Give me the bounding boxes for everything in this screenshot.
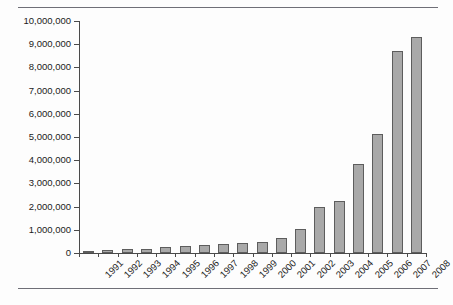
bar <box>276 238 287 253</box>
x-axis-tick <box>137 253 138 257</box>
x-axis-tick-label: 2005 <box>373 258 395 280</box>
y-axis-tick-label-text: 6,000,000 <box>29 109 71 119</box>
y-axis-tick-label-text: 2,000,000 <box>29 202 71 212</box>
y-axis-tick-label: 5,000,000 <box>0 132 71 142</box>
x-axis-tick <box>272 253 273 257</box>
x-axis-tick-label: 2003 <box>334 258 356 280</box>
x-axis-tick-label: 1995 <box>180 258 202 280</box>
y-axis-tick-label: 7,000,000 <box>0 86 71 96</box>
y-axis-tick-label-text: 4,000,000 <box>29 155 71 165</box>
bar <box>237 243 248 253</box>
y-axis-tick-label-text: 8,000,000 <box>29 62 71 72</box>
y-axis-tick-label: 1,000,000 <box>0 225 71 235</box>
x-axis-tick <box>175 253 176 257</box>
y-axis-tick-label: 0 <box>0 248 71 258</box>
y-axis-tick <box>74 44 79 45</box>
bar <box>353 164 364 253</box>
y-axis-tick <box>74 183 79 184</box>
bar-chart-plot-area: 01,000,0002,000,0003,000,0004,000,0005,0… <box>0 0 453 305</box>
y-axis-tick-label-text: 3,000,000 <box>29 178 71 188</box>
y-axis-tick-label: 10,000,000 <box>0 16 71 26</box>
y-axis-tick-label-text: 0 <box>66 248 71 258</box>
y-axis-tick-label-text: 9,000,000 <box>29 39 71 49</box>
bar <box>257 242 268 253</box>
x-axis-tick <box>407 253 408 257</box>
x-axis-tick <box>368 253 369 257</box>
y-axis-tick-label-text: 10,000,000 <box>23 16 71 26</box>
y-axis-tick-label-text: 1,000,000 <box>29 225 71 235</box>
x-axis-tick-label: 2008 <box>431 258 453 280</box>
x-axis-tick <box>233 253 234 257</box>
bar <box>218 244 229 253</box>
x-axis-tick <box>330 253 331 257</box>
x-axis-tick-label: 2004 <box>353 258 375 280</box>
x-axis-tick-label: 1992 <box>122 258 144 280</box>
x-axis-tick <box>426 253 427 257</box>
y-axis-tick <box>74 230 79 231</box>
x-axis-tick <box>156 253 157 257</box>
x-axis-tick <box>214 253 215 257</box>
bar <box>314 207 325 253</box>
bar <box>83 251 94 253</box>
bar <box>122 249 133 253</box>
y-axis-tick <box>74 137 79 138</box>
x-axis-tick <box>79 253 80 257</box>
y-axis-tick-label: 3,000,000 <box>0 178 71 188</box>
bar <box>141 249 152 253</box>
x-axis-tick-label: 2007 <box>411 258 433 280</box>
y-axis-tick-label: 2,000,000 <box>0 202 71 212</box>
x-axis-tick-label: 2000 <box>276 258 298 280</box>
x-axis-tick <box>291 253 292 257</box>
bar <box>411 37 422 253</box>
y-axis-line <box>79 21 80 254</box>
x-axis-tick-label: 1993 <box>141 258 163 280</box>
y-axis-tick-label: 8,000,000 <box>0 62 71 72</box>
bar <box>295 229 306 253</box>
bar <box>102 250 113 253</box>
bar <box>180 246 191 253</box>
y-axis-tick <box>74 114 79 115</box>
y-axis-tick <box>74 91 79 92</box>
x-axis-tick-label: 1999 <box>257 258 279 280</box>
bar <box>334 201 345 253</box>
x-axis-tick-label: 1998 <box>238 258 260 280</box>
bar <box>392 51 403 253</box>
y-axis-tick-label-text: 5,000,000 <box>29 132 71 142</box>
y-axis-tick-label-text: 7,000,000 <box>29 86 71 96</box>
y-axis-tick-label: 6,000,000 <box>0 109 71 119</box>
bar <box>199 245 210 253</box>
y-axis-tick <box>74 67 79 68</box>
y-axis-tick-label: 4,000,000 <box>0 155 71 165</box>
x-axis-tick-label: 2002 <box>315 258 337 280</box>
x-axis-tick-label: 1994 <box>161 258 183 280</box>
x-axis-tick-label: 1997 <box>218 258 240 280</box>
y-axis-tick <box>74 21 79 22</box>
x-axis-tick-label: 2006 <box>392 258 414 280</box>
x-axis-tick <box>195 253 196 257</box>
bar <box>372 134 383 253</box>
x-axis-tick <box>98 253 99 257</box>
x-axis-tick-label: 1991 <box>103 258 125 280</box>
figure: 01,000,0002,000,0003,000,0004,000,0005,0… <box>0 0 453 305</box>
y-axis-tick <box>74 207 79 208</box>
x-axis-tick <box>253 253 254 257</box>
y-axis-tick <box>74 160 79 161</box>
x-axis-tick-label: 2001 <box>296 258 318 280</box>
x-axis-tick <box>349 253 350 257</box>
x-axis-tick <box>118 253 119 257</box>
y-axis-tick-label: 9,000,000 <box>0 39 71 49</box>
bar <box>160 247 171 253</box>
x-axis-tick <box>310 253 311 257</box>
x-axis-tick-label: 1996 <box>199 258 221 280</box>
